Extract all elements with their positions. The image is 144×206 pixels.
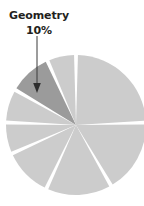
- pie-chart-svg: [0, 0, 144, 206]
- pie-slice[interactable]: [76, 55, 144, 125]
- callout-leader-line: [33, 36, 41, 93]
- pie-chart-figure: Geometry 10%: [0, 0, 144, 206]
- pie-slice-group: [6, 55, 144, 195]
